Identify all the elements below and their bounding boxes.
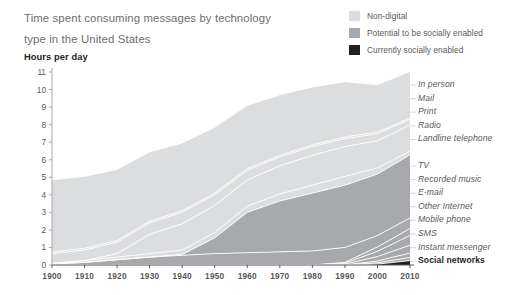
x-tick-label: 2000 bbox=[368, 271, 387, 281]
x-tick-label: 1970 bbox=[270, 271, 289, 281]
x-tick-label: 1900 bbox=[42, 271, 61, 281]
x-tick-label: 1950 bbox=[205, 271, 224, 281]
y-tick-label: 2 bbox=[41, 225, 46, 235]
series-label: Recorded music bbox=[418, 174, 482, 184]
y-tick-label: 7 bbox=[41, 137, 46, 147]
y-tick-label: 4 bbox=[41, 190, 46, 200]
x-tick-label: 1910 bbox=[75, 271, 94, 281]
series-label: SMS bbox=[418, 228, 437, 238]
y-tick-label: 11 bbox=[37, 67, 46, 77]
y-tick-label: 5 bbox=[41, 172, 46, 182]
series-label: Print bbox=[418, 106, 436, 116]
y-tick-label: 3 bbox=[41, 207, 46, 217]
series-label: Landline telephone bbox=[418, 133, 492, 143]
x-tick-label: 1980 bbox=[303, 271, 322, 281]
y-tick-label: 10 bbox=[37, 85, 47, 95]
series-label: E-mail bbox=[418, 187, 443, 197]
series-label: TV bbox=[418, 160, 429, 170]
series-label: Mail bbox=[418, 93, 434, 103]
series-label: Social networks bbox=[418, 255, 485, 265]
x-tick-label: 1960 bbox=[238, 271, 257, 281]
series-label: Instant messenger bbox=[418, 242, 490, 252]
x-tick-label: 1990 bbox=[335, 271, 354, 281]
y-tick-label: 9 bbox=[41, 102, 46, 112]
x-tick-label: 1920 bbox=[107, 271, 126, 281]
chart-page: Time spent consuming messages by technol… bbox=[0, 0, 515, 295]
series-label: Other Internet bbox=[418, 201, 472, 211]
x-tick-label: 1940 bbox=[173, 271, 192, 281]
series-label: Mobile phone bbox=[418, 214, 471, 224]
y-tick-label: 6 bbox=[41, 155, 46, 165]
y-tick-label: 8 bbox=[41, 120, 46, 130]
series-label: Radio bbox=[418, 120, 441, 130]
y-tick-label: 1 bbox=[41, 242, 46, 252]
x-tick-label: 1930 bbox=[140, 271, 159, 281]
series-label: In person bbox=[418, 79, 455, 89]
y-tick-label: 0 bbox=[41, 260, 46, 270]
x-tick-label: 2010 bbox=[400, 271, 419, 281]
